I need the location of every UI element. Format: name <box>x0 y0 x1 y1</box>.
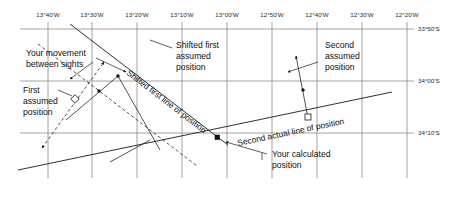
first-assumed-annotation: First assumed position <box>23 85 58 117</box>
movement-annotation: Your movement between sights <box>26 48 86 69</box>
longitude-tick-label-5: 12°50'W <box>260 11 283 18</box>
movement-label-line2: between sights <box>26 59 83 69</box>
longitude-tick-label-1: 13°30'W <box>80 11 103 18</box>
first-assumed-label-line1: First <box>23 85 40 95</box>
latitude-tick-label-0: 33°50'S <box>418 25 440 32</box>
leader-shifted-first-assumed <box>150 40 172 48</box>
shifted-first-assumed-label-line3: position <box>176 62 206 72</box>
navigation-diagram-figure: 13°40'W 13°30'W 13°20'W 13°10'W 13°00'W … <box>0 0 456 197</box>
second-assumed-position-marker <box>305 114 311 120</box>
shifted-first-assumed-annotation: Shifted first assumed position <box>176 40 220 72</box>
longitude-tick-label-4: 13°00'W <box>215 11 238 18</box>
calculated-position-marker <box>215 135 220 140</box>
leader-second-assumed <box>288 62 318 72</box>
first-assumed-label-line2: assumed <box>23 96 58 106</box>
shifted-first-assumed-label-line1: Shifted first <box>176 40 220 50</box>
calculated-position-marker-group <box>215 135 220 140</box>
movement-label-line1: Your movement <box>26 48 86 58</box>
longitude-tick-label-6: 12°40'W <box>305 11 328 18</box>
longitude-tick-label-3: 13°10'W <box>170 11 193 18</box>
longitude-tick-label-2: 13°20'W <box>125 11 148 18</box>
second-assumed-label-line2: assumed <box>325 51 360 61</box>
longitude-tick-labels: 13°40'W 13°30'W 13°20'W 13°10'W 13°00'W … <box>36 11 418 18</box>
second-assumed-label-line3: position <box>325 62 355 72</box>
longitude-tick-label-0: 13°40'W <box>36 11 59 18</box>
leader-movement <box>96 58 126 72</box>
calculated-label-line1: Your calculated <box>272 149 331 159</box>
first-assumed-position-marker <box>71 95 79 103</box>
leader-first-assumed <box>58 90 72 96</box>
shifted-assumed-dot <box>116 74 119 77</box>
first-construction-tail <box>110 140 150 162</box>
latitude-tick-label-1: 34°00'S <box>418 77 440 84</box>
calculated-position-annotation: Your calculated position <box>272 149 331 170</box>
latitude-tick-label-2: 34°10'S <box>418 129 440 136</box>
calculated-label-line2: position <box>272 160 302 170</box>
shifted-first-assumed-label-line2: assumed <box>176 51 211 61</box>
second-sight-construction-lines <box>296 56 308 118</box>
second-assumed-label-line1: Second <box>325 40 354 50</box>
plotting-sheet-svg: 13°40'W 13°30'W 13°20'W 13°10'W 13°00'W … <box>0 0 456 197</box>
first-assumed-label-line3: position <box>23 107 53 117</box>
second-ray-dot <box>301 88 304 91</box>
longitude-tick-label-8: 12°20'W <box>395 11 418 18</box>
longitude-tick-label-7: 12°30'W <box>350 11 373 18</box>
second-assumed-annotation: Second assumed position <box>325 40 360 72</box>
latitude-tick-labels: 33°50'S 34°00'S 34°10'S <box>418 25 440 136</box>
second-intercept-ray <box>296 56 308 118</box>
first-ray-dot <box>97 89 100 92</box>
